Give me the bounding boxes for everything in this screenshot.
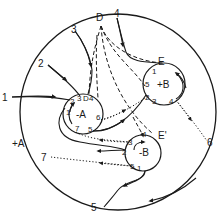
minus-B-label-5: 5	[130, 162, 135, 171]
plus-B-label-1: 1	[152, 67, 157, 76]
plus-B-label-3: 3	[152, 97, 157, 106]
minus-A-labels: -A 1 2 3 D 4 6 7 5	[66, 94, 101, 134]
minus-B-label-2: 2	[122, 148, 127, 157]
outer-labels: 1 2 3 D 4 6 7 5 +A	[2, 8, 213, 213]
diagram-svg: 1 2 3 D 4 6 7 5 +A -A 1 2 3 D 4 6 7 5 +B…	[0, 0, 222, 213]
minus-A-label-1: 1	[66, 108, 71, 117]
minus-B-center-label: -B	[139, 147, 149, 158]
plus-B-label-4: 4	[169, 97, 174, 106]
plus-B-point-E: E	[158, 56, 165, 67]
minus-B-point-E-prime: E'	[158, 130, 167, 141]
outer-label-D: D	[96, 12, 103, 23]
outer-label-6: 6	[207, 137, 213, 148]
minus-A-label-7: 7	[75, 124, 80, 133]
outer-boundary-circle	[20, 14, 216, 210]
minus-A-label-2: 2	[70, 97, 75, 106]
minus-A-label-5: 5	[88, 125, 93, 134]
plus-B-label-2: 2	[145, 93, 150, 102]
minus-B-labels: -B E' 3 4 2 5 1	[122, 130, 167, 173]
outer-label-1: 1	[2, 92, 8, 103]
minus-A-label-6: 6	[96, 113, 101, 122]
outer-label-4: 4	[114, 8, 120, 19]
minus-B-label-1: 1	[137, 164, 142, 173]
region-label-plus-A: +A	[12, 138, 25, 149]
minus-B-label-3: 3	[128, 138, 133, 147]
minus-A-center-label: -A	[76, 109, 86, 120]
minus-B-label-4: 4	[142, 130, 147, 139]
outer-label-7: 7	[41, 152, 47, 163]
minus-A-label-3: 3	[77, 94, 82, 103]
plus-B-label-5: 5	[145, 80, 150, 89]
outer-label-3: 3	[71, 24, 77, 35]
plus-B-center-label: +B	[157, 79, 170, 90]
outer-label-2: 2	[38, 58, 44, 69]
outer-label-5: 5	[91, 202, 97, 213]
minus-A-label-4: 4	[89, 94, 94, 103]
diagram-canvas: 1 2 3 D 4 6 7 5 +A -A 1 2 3 D 4 6 7 5 +B…	[0, 0, 222, 213]
